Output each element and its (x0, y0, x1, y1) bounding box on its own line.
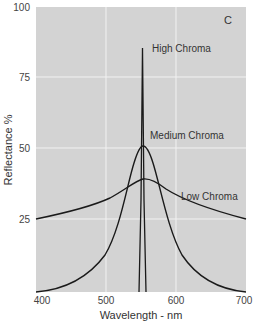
medium-chroma-label: Medium Chroma (150, 130, 224, 141)
svg-text:25: 25 (19, 214, 31, 225)
x-axis-label: Wavelength - nm (100, 309, 183, 321)
svg-text:500: 500 (98, 295, 115, 306)
svg-text:700: 700 (236, 295, 253, 306)
high-chroma-label: High Chroma (152, 43, 211, 54)
y-axis-label: Reflectance % (2, 114, 14, 185)
svg-text:75: 75 (19, 72, 31, 83)
svg-text:50: 50 (19, 143, 31, 154)
x-tick-labels: 400 500 600 700 (34, 295, 253, 306)
y-tick-labels: 100 75 50 25 (13, 2, 30, 225)
low-chroma-label: Low Chroma (181, 191, 238, 202)
svg-text:100: 100 (13, 2, 30, 13)
reflectance-chart: 100 75 50 25 400 500 600 700 Wavelength … (0, 0, 255, 327)
panel-label: C (224, 14, 232, 26)
svg-text:400: 400 (34, 295, 51, 306)
svg-text:600: 600 (168, 295, 185, 306)
